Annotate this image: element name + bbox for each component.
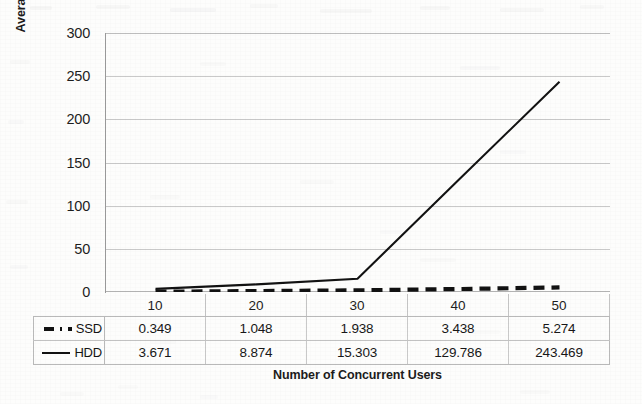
y-axis-tick-label: 250: [36, 68, 98, 84]
legend-entry-ssd[interactable]: SSD: [33, 317, 105, 340]
dashed-line-swatch-icon: [43, 323, 73, 335]
table-cell: 3.438: [408, 317, 509, 340]
solid-line-swatch-icon: [41, 347, 71, 359]
y-axis-tick-label: 300: [36, 25, 98, 41]
series-line-hdd: [156, 82, 560, 289]
x-axis-tick-label: 30: [307, 294, 408, 316]
y-axis-line: [105, 33, 106, 293]
x-axis-tick-label: 50: [509, 294, 610, 316]
table-cell: 5.274: [509, 317, 610, 340]
table-cell: 1.938: [307, 317, 408, 340]
x-axis-tick-labels: 1020304050: [105, 294, 610, 316]
table-cell: 1.048: [206, 317, 307, 340]
table-cell: 243.469: [509, 341, 610, 364]
table-cell: 129.786: [408, 341, 509, 364]
x-axis-tick-label: 40: [408, 294, 509, 316]
y-axis-title: Average User Response Time (in s): [8, 0, 34, 59]
table-cell: 3.671: [105, 341, 206, 364]
plot-area: [105, 33, 610, 292]
table-cell: 8.874: [206, 341, 307, 364]
legend-label: HDD: [74, 345, 102, 360]
series-line-ssd: [156, 287, 560, 291]
y-axis-tick-labels: 300250200150100500: [36, 33, 98, 292]
x-axis-title: Number of Concurrent Users: [105, 368, 610, 382]
x-axis-tick-label: 20: [206, 294, 307, 316]
legend-entry-hdd[interactable]: HDD: [33, 341, 105, 364]
table-row: SSD0.3491.0481.9383.4385.274: [33, 317, 610, 341]
y-axis-tick-label: 100: [36, 198, 98, 214]
x-axis-tick-label: 10: [105, 294, 206, 316]
y-axis-tick-label: 200: [36, 111, 98, 127]
chart-data-table: SSD0.3491.0481.9383.4385.274HDD3.6718.87…: [33, 316, 610, 365]
y-axis-tick-label: 0: [36, 284, 98, 300]
y-axis-tick-label: 50: [36, 241, 98, 257]
y-axis-tick-label: 150: [36, 155, 98, 171]
legend-label: SSD: [76, 321, 102, 336]
chart-page: Average User Response Time (in s) 300250…: [0, 0, 642, 404]
table-cell: 15.303: [307, 341, 408, 364]
table-row: HDD3.6718.87415.303129.786243.469: [33, 341, 610, 365]
table-cell: 0.349: [105, 317, 206, 340]
series-svg: [105, 33, 610, 292]
